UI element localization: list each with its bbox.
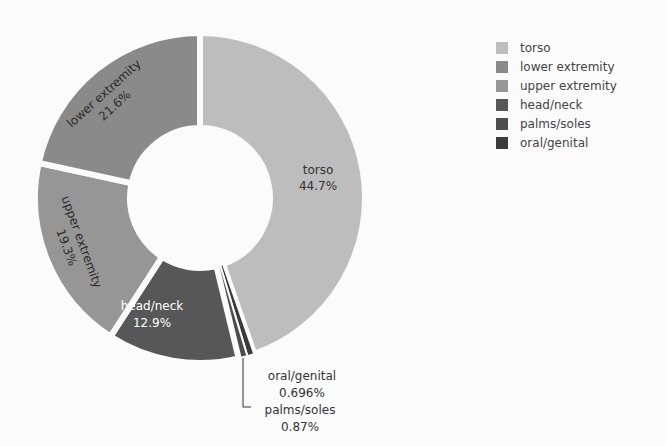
- legend-label: upper extremity: [520, 79, 617, 93]
- legend-swatch: [496, 61, 508, 73]
- legend-item-torso[interactable]: torso: [496, 38, 617, 57]
- legend-label: palms/soles: [520, 117, 591, 131]
- legend-item-head-neck[interactable]: head/neck: [496, 95, 617, 114]
- slice-label-oral-pct: 0.696%: [279, 386, 325, 400]
- slice-label-torso-pct: 44.7%: [299, 179, 337, 193]
- legend-item-lower-extremity[interactable]: lower extremity: [496, 57, 617, 76]
- slice-label-palms-name: palms/soles: [265, 403, 336, 417]
- legend-label: oral/genital: [520, 136, 588, 150]
- legend-swatch: [496, 137, 508, 149]
- leader-line-palms-soles: [243, 358, 251, 407]
- legend-swatch: [496, 42, 508, 54]
- slice-label-head-pct: 12.9%: [133, 316, 171, 330]
- legend-swatch: [496, 99, 508, 111]
- slice-label-oral-name: oral/genital: [268, 369, 336, 383]
- legend-label: torso: [520, 41, 551, 55]
- chart-legend: torso lower extremity upper extremity he…: [496, 38, 617, 152]
- legend-item-oral-genital[interactable]: oral/genital: [496, 133, 617, 152]
- legend-swatch: [496, 118, 508, 130]
- legend-label: lower extremity: [520, 60, 614, 74]
- legend-item-upper-extremity[interactable]: upper extremity: [496, 76, 617, 95]
- legend-item-palms-soles[interactable]: palms/soles: [496, 114, 617, 133]
- slice-label-head-name: head/neck: [121, 299, 184, 313]
- slice-label-palms-pct: 0.87%: [281, 420, 319, 434]
- legend-label: head/neck: [520, 98, 583, 112]
- slice-label-torso-name: torso: [303, 163, 334, 177]
- donut-slices: [35, 33, 365, 363]
- legend-swatch: [496, 80, 508, 92]
